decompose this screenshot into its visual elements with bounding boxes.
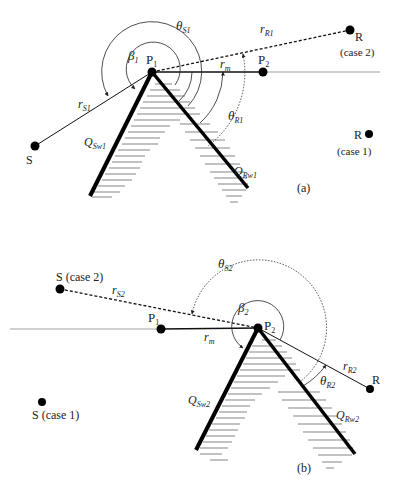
point-P2-b [254, 324, 263, 333]
label-S-a: S [26, 153, 33, 167]
path-P1-R-case2 [152, 30, 350, 72]
wedge-face-Sw2 [196, 328, 258, 450]
edge-P1-P2-b [161, 328, 258, 329]
point-S-a [31, 142, 40, 151]
point-S-case1 [38, 398, 46, 406]
symbol-rR1: rR1 [260, 22, 274, 38]
wedge-hatching-b [200, 340, 353, 468]
symbol-QSw1: QSw1 [84, 135, 106, 151]
symbol-rS2: rS2 [112, 283, 125, 299]
symbol-rm-a: rm [220, 57, 231, 73]
symbol-QRw2: QRw2 [336, 408, 359, 424]
symbol-QSw2: QSw2 [188, 393, 210, 409]
label-P1-b: P1 [148, 310, 159, 327]
symbol-beta1: β1 [127, 48, 138, 65]
symbol-rR2: rR2 [343, 359, 357, 375]
label-S-case2: S (case 2) [56, 270, 103, 284]
symbol-thetaR1: θR1 [228, 108, 243, 125]
symbol-thetaS2: θS2 [218, 256, 232, 273]
note-R-case1: (case 1) [337, 145, 372, 158]
label-R-case2: R [355, 30, 363, 44]
label-R-case1: R [354, 128, 362, 142]
symbol-thetaS1: θS1 [176, 18, 190, 35]
thetaS2-arc [192, 260, 327, 381]
note-R-case2: (case 2) [340, 46, 375, 59]
wedge-face-Sw1 [90, 72, 152, 196]
label-P2-a: P2 [258, 52, 269, 69]
symbol-rm-b: rm [204, 330, 215, 346]
symbol-QRw1: QRw1 [234, 164, 257, 180]
panel-label-b: (b) [297, 461, 311, 475]
panel-b: P1 P2 S (case 2) S (case 1) R θS2 β2 rS2… [10, 256, 380, 475]
label-P2-b: P2 [264, 318, 275, 335]
panel-label-a: (a) [297, 181, 310, 195]
rm-angle-arc [200, 72, 223, 123]
label-P1-a: P1 [146, 52, 157, 69]
theta-arc-inner [179, 72, 192, 101]
panel-a: P1 P2 R (case 2) S R (case 1) θS1 β1 rR1… [26, 18, 380, 202]
point-S-case2 [56, 285, 65, 294]
diffraction-geometry-figure: P1 P2 R (case 2) S R (case 1) θS1 β1 rR1… [0, 0, 398, 487]
point-R-case2 [346, 26, 355, 35]
path-P2-R [258, 328, 370, 389]
point-R-case1 [365, 130, 373, 138]
label-S-case1: S (case 1) [32, 408, 79, 422]
wedge-face-Rw2 [258, 328, 355, 454]
symbol-rS1: rS1 [78, 97, 91, 113]
label-R-b: R [372, 373, 380, 387]
symbol-thetaR2: θR2 [320, 373, 335, 390]
